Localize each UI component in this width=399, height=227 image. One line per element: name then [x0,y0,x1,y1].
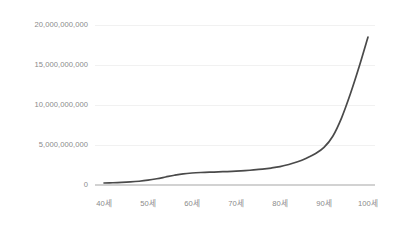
x-tick-label: 80세 [272,199,288,208]
chart-container: 05,000,000,00010,000,000,00015,000,000,0… [0,0,399,227]
x-tick-label: 60세 [184,199,200,208]
x-tick-label: 70세 [228,199,244,208]
series-line [104,37,368,183]
x-tick-label: 90세 [316,199,332,208]
x-tick-label: 40세 [96,199,112,208]
y-axis-tick-labels: 05,000,000,00010,000,000,00015,000,000,0… [35,20,89,189]
x-tick-label: 50세 [140,199,156,208]
y-tick-label: 10,000,000,000 [35,100,89,109]
x-axis-tick-labels: 40세50세60세70세80세90세100세 [96,199,378,208]
line-chart: 05,000,000,00010,000,000,00015,000,000,0… [0,0,399,227]
y-tick-label: 0 [84,180,88,189]
x-tick-label: 100세 [358,199,378,208]
y-tick-label: 20,000,000,000 [35,20,89,29]
data-series [104,37,368,183]
y-tick-label: 5,000,000,000 [39,140,88,149]
gridlines [95,25,375,145]
y-tick-label: 15,000,000,000 [35,60,89,69]
